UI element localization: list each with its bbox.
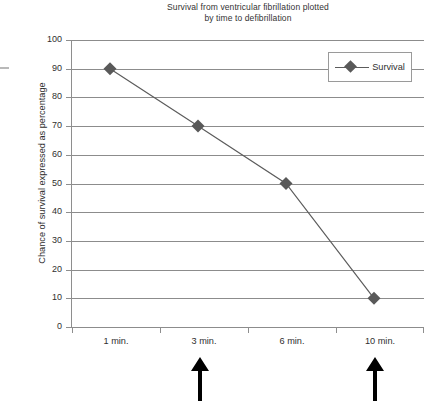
y-tick-label-40-wrap: 40	[38, 207, 62, 217]
y-tick-label-70-wrap: 70	[38, 121, 62, 131]
y-tick-label-0: 0	[38, 322, 62, 331]
y-tick-10	[66, 298, 72, 299]
chart-container: Survival from ventricular fibrillation p…	[0, 0, 438, 401]
y-tick-label-40: 40	[38, 207, 62, 216]
x-tick-boundary-4	[423, 327, 424, 333]
y-tick-label-0-wrap: 0	[38, 322, 62, 332]
y-tick-60	[66, 155, 72, 156]
y-tick-70	[66, 126, 72, 127]
y-tick-label-90-wrap: 90	[38, 64, 62, 74]
x-tick-boundary-0	[72, 327, 73, 333]
arrow-up-icon-10-min	[364, 357, 386, 401]
gridline-40	[72, 212, 424, 213]
y-tick-label-10: 10	[38, 293, 62, 302]
y-tick-label-80: 80	[38, 92, 62, 101]
y-tick-label-50-wrap: 50	[38, 179, 62, 189]
y-tick-40	[66, 212, 72, 213]
y-tick-100	[66, 40, 72, 41]
chart-title-line-1: Survival from ventricular fibrillation p…	[72, 2, 424, 13]
x-tick-boundary-3	[336, 327, 337, 333]
y-tick-80	[66, 97, 72, 98]
x-tick-boundary-1	[160, 327, 161, 333]
legend-item-survival[interactable]: Survival	[329, 53, 411, 81]
x-tick-label-3-min: 3 min.	[164, 336, 244, 346]
gridline-70	[72, 126, 424, 127]
legend[interactable]: Survival	[328, 52, 412, 82]
gridline-50	[72, 184, 424, 185]
legend-label-survival: Survival	[372, 62, 405, 72]
gridline-30	[72, 241, 424, 242]
legend-diamond-icon	[335, 61, 369, 73]
chart-title-line-2: by time to defibrillation	[72, 13, 424, 24]
y-tick-label-100-wrap: 100	[38, 35, 62, 45]
y-tick-label-10-wrap: 10	[38, 293, 62, 303]
gridline-10	[72, 298, 424, 299]
y-tick-label-60: 60	[38, 150, 62, 159]
gridline-100	[72, 40, 424, 41]
y-tick-label-100: 100	[38, 35, 62, 44]
gridline-20	[72, 270, 424, 271]
x-tick-label-6-min: 6 min.	[252, 336, 332, 346]
gridline-80	[72, 97, 424, 98]
plot-area	[72, 40, 424, 327]
x-tick-label-10-min: 10 min.	[340, 336, 420, 346]
y-tick-20	[66, 270, 72, 271]
y-tick-label-20: 20	[38, 265, 62, 274]
y-tick-label-20-wrap: 20	[38, 265, 62, 275]
y-tick-label-50: 50	[38, 179, 62, 188]
x-tick-label-1-min: 1 min.	[76, 336, 156, 346]
gridline-60	[72, 155, 424, 156]
y-tick-label-80-wrap: 80	[38, 92, 62, 102]
arrow-up-icon-3-min	[189, 357, 211, 401]
y-tick-label-30: 30	[38, 236, 62, 245]
x-tick-boundary-2	[248, 327, 249, 333]
y-tick-label-70: 70	[38, 121, 62, 130]
scan-artifact	[0, 67, 9, 69]
y-tick-30	[66, 241, 72, 242]
y-tick-label-30-wrap: 30	[38, 236, 62, 246]
y-tick-50	[66, 184, 72, 185]
y-tick-label-90: 90	[38, 64, 62, 73]
y-tick-90	[66, 69, 72, 70]
y-tick-label-60-wrap: 60	[38, 150, 62, 160]
chart-title: Survival from ventricular fibrillation p…	[72, 2, 424, 24]
